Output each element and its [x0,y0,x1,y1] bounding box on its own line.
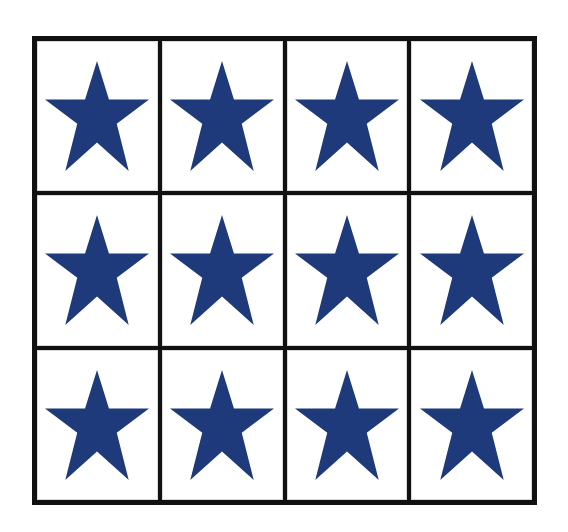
star-icon [420,61,524,171]
star-grid [32,36,537,505]
grid-cell [162,350,283,500]
grid-cell [411,41,532,191]
star-icon [45,61,149,171]
star-icon [45,370,149,480]
grid-cell [287,41,408,191]
star-icon [170,370,274,480]
grid-cell [287,195,408,345]
grid-cell [287,350,408,500]
star-icon [295,215,399,325]
star-icon [170,215,274,325]
grid-cell [37,195,158,345]
star-icon [420,215,524,325]
grid-cell [37,41,158,191]
grid-cell [162,41,283,191]
grid-cell [162,195,283,345]
grid-cell [411,195,532,345]
star-icon [170,61,274,171]
grid-cell [37,350,158,500]
star-icon [295,370,399,480]
star-icon [295,61,399,171]
grid-cell [411,350,532,500]
star-icon [45,215,149,325]
star-icon [420,370,524,480]
